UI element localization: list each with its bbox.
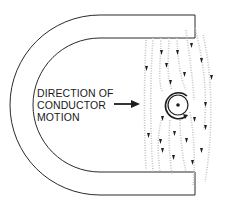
label-line-3: MOTION <box>37 111 113 123</box>
direction-label: DIRECTION OF CONDUCTOR MOTION <box>37 87 113 123</box>
conductor <box>165 93 188 119</box>
motion-arrow <box>114 100 140 108</box>
label-line-1: DIRECTION OF <box>37 87 113 99</box>
label-line-2: CONDUCTOR <box>37 99 113 111</box>
horseshoe-magnet-diagram <box>0 0 228 210</box>
current-out-dot <box>176 103 180 107</box>
